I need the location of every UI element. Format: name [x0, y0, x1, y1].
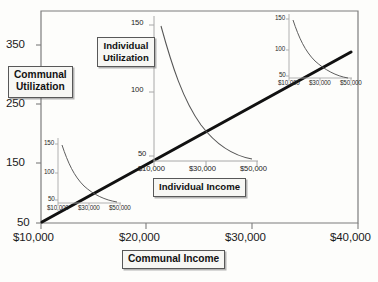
inset-lower-left-xtick-50000: $50,000 — [109, 205, 131, 212]
inset-center-ytick-50: 50 — [138, 150, 146, 158]
inset-upper-right-xtick-30000: $30,000 — [309, 80, 331, 87]
main-ytick-350: 350 — [6, 38, 25, 50]
inset-center — [149, 16, 258, 166]
chart-figure: 350 250 150 50 $10,000 $20,000 $30,000 $… — [0, 0, 378, 282]
inset-center-ytick-100: 100 — [131, 86, 143, 94]
inset-lower-left-ytick-150: 150 — [44, 140, 54, 147]
inset-lower-left-xtick-30000: $30,000 — [78, 205, 100, 212]
main-ytick-250: 250 — [6, 97, 25, 109]
inset-center-ytick-150: 150 — [131, 19, 143, 27]
inset-center-y-axis-title-line1: Individual — [103, 40, 149, 52]
inset-lower-left-ytick-100: 100 — [44, 169, 54, 176]
inset-center-xtick-30000: $30,000 — [189, 165, 216, 173]
main-x-axis-title: Communal Income — [122, 250, 225, 269]
inset-center-x-axis-title: Individual Income — [153, 178, 246, 197]
main-xtick-30000: $30,000 — [225, 231, 266, 243]
main-x-tick-marks — [41, 223, 358, 229]
inset-lower-left-ytick-50: 50 — [48, 196, 55, 203]
main-ytick-50: 50 — [17, 216, 30, 228]
inset-center-xtick-10000: $10,000 — [138, 165, 165, 173]
inset-center-xtick-50000: $50,000 — [240, 165, 267, 173]
inset-center-y-axis-title: Individual Utilization — [97, 37, 155, 67]
main-y-axis-title: Communal Utilization — [8, 66, 73, 98]
main-xtick-20000: $20,000 — [119, 231, 160, 243]
inset-upper-right-xtick-10000: $10,000 — [278, 80, 300, 87]
inset-upper-right-xtick-50000: $50,000 — [340, 80, 362, 87]
inset-upper-right-ytick-100: 100 — [275, 46, 285, 53]
main-y-axis-title-line1: Communal — [14, 69, 67, 81]
inset-lower-left-xtick-10000: $10,000 — [47, 205, 69, 212]
main-ytick-150: 150 — [6, 156, 25, 168]
inset-upper-right-ytick-150: 150 — [275, 15, 285, 22]
main-y-axis-title-line2: Utilization — [14, 81, 67, 93]
chart-canvas — [0, 0, 378, 282]
main-xtick-10000: $10,000 — [13, 231, 54, 243]
main-xtick-40000: $40,000 — [330, 231, 371, 243]
inset-upper-right-ytick-50: 50 — [279, 72, 286, 79]
inset-center-y-axis-title-line2: Utilization — [103, 52, 149, 64]
